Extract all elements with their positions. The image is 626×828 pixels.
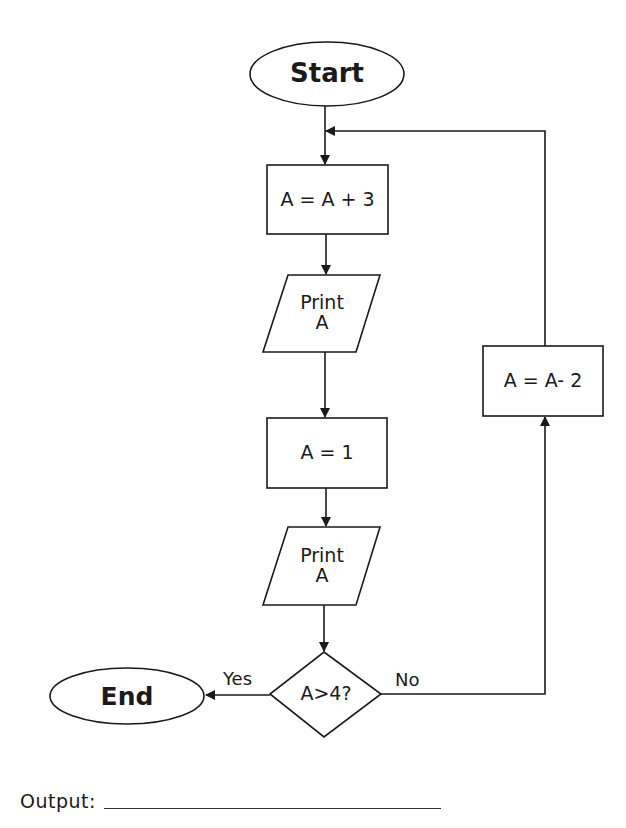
set1-label: A = 1 bbox=[267, 436, 387, 470]
sub2-label: A = A- 2 bbox=[483, 364, 603, 398]
output-label: Output: bbox=[20, 790, 96, 812]
output-answer-row: Output: bbox=[20, 788, 441, 812]
print2-label: Print A bbox=[270, 543, 374, 589]
end-label: End bbox=[50, 678, 204, 716]
start-label: Start bbox=[250, 54, 404, 94]
add3-label: A = A + 3 bbox=[267, 183, 388, 217]
print1-label: Print A bbox=[270, 290, 374, 336]
output-answer-blank[interactable] bbox=[104, 788, 441, 809]
decision-label: A>4? bbox=[282, 680, 370, 708]
edge-label-no: No bbox=[395, 671, 419, 690]
edge-decision-sub2 bbox=[381, 417, 545, 694]
edge-label-yes: Yes bbox=[223, 670, 252, 689]
